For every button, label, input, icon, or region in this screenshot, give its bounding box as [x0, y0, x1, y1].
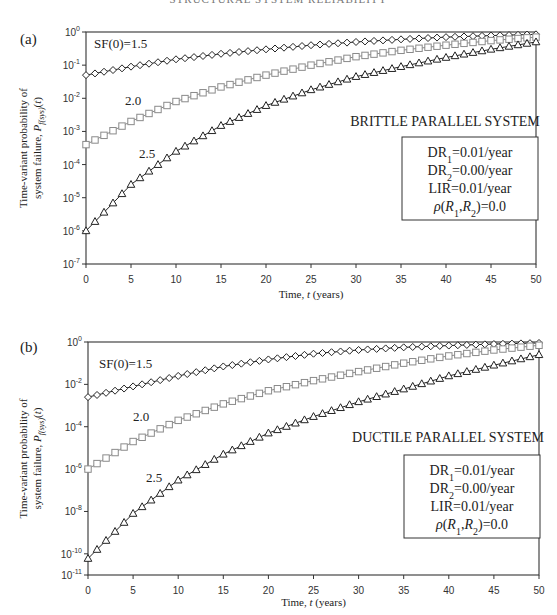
y-tick-label: 100 [65, 25, 80, 38]
y-tick-label: 10-11 [61, 568, 82, 581]
x-tick-label: 25 [308, 585, 320, 596]
y-tick-label: 10-2 [63, 91, 80, 104]
y-tick-label: 10-8 [65, 504, 82, 517]
chart-title: DUCTILE PARALLEL SYSTEM [352, 430, 544, 445]
series-label: 2.0 [133, 409, 149, 424]
series-label: 2.5 [139, 146, 155, 161]
svg-text:Time-variant probability of: Time-variant probability of [17, 398, 29, 518]
y-tick-label: 10-5 [63, 191, 80, 204]
x-tick-label: 45 [488, 585, 500, 596]
x-tick-label: 0 [83, 274, 89, 285]
x-axis: 05101520253035404550 [85, 575, 545, 596]
panel-label: (b) [20, 339, 38, 356]
y-tick-label: 10-6 [65, 462, 82, 475]
svg-text:Time-variant probability of: Time-variant probability of [17, 88, 29, 208]
y-axis-label: Time-variant probability ofsystem failur… [17, 398, 46, 518]
y-tick-label: 10-2 [65, 377, 82, 390]
x-axis: 05101520253035404550 [83, 264, 542, 285]
chart-panel-a: (a)10010-110-210-310-410-510-610-7051015… [17, 25, 542, 301]
y-axis: 10010-210-410-610-810-1010-11 [61, 335, 88, 581]
y-tick-label: 10-4 [65, 420, 82, 433]
series-label: SF(0)=1.5 [99, 356, 152, 371]
x-tick-label: 25 [305, 274, 317, 285]
panel-label: (a) [20, 31, 37, 48]
figure: (a)10010-110-210-310-410-510-610-7051015… [0, 0, 557, 615]
x-tick-label: 15 [218, 585, 230, 596]
x-tick-label: 50 [530, 274, 542, 285]
svg-text:LIR=0.01/year: LIR=0.01/year [431, 499, 514, 514]
x-tick-label: 15 [215, 274, 227, 285]
series-label: SF(0)=1.5 [94, 36, 147, 51]
y-tick-label: 10-1 [63, 58, 80, 71]
y-tick-label: 10-3 [63, 124, 80, 137]
chart-title: BRITTLE PARALLEL SYSTEM [350, 114, 540, 129]
y-tick-label: 10-6 [63, 224, 80, 237]
x-tick-label: 30 [350, 274, 362, 285]
x-tick-label: 35 [398, 585, 410, 596]
x-tick-label: 40 [443, 585, 455, 596]
x-tick-label: 30 [353, 585, 365, 596]
svg-text:LIR=0.01/year: LIR=0.01/year [429, 181, 512, 196]
x-tick-label: 35 [395, 274, 407, 285]
x-tick-label: 5 [130, 585, 136, 596]
svg-text:system failure, Pf(sys)(t): system failure, Pf(sys)(t) [31, 97, 46, 199]
x-axis-label: Time, t (years) [279, 288, 344, 301]
x-tick-label: 50 [533, 585, 545, 596]
x-tick-label: 10 [173, 585, 185, 596]
series-label: 2.5 [146, 470, 162, 485]
x-tick-label: 0 [85, 585, 91, 596]
y-tick-label: 10-7 [63, 257, 80, 270]
x-tick-label: 20 [263, 585, 275, 596]
parameter-box: DR1=0.01/yearDR2=0.00/yearLIR=0.01/yearρ… [402, 137, 538, 220]
x-tick-label: 45 [485, 274, 497, 285]
svg-text:system failure, Pf(sys)(t): system failure, Pf(sys)(t) [31, 407, 46, 509]
y-tick-label: 10-4 [63, 158, 80, 171]
x-tick-label: 5 [128, 274, 134, 285]
y-tick-label: 100 [67, 335, 82, 348]
y-axis-label: Time-variant probability ofsystem failur… [17, 88, 46, 208]
y-tick-label: 10-10 [61, 547, 82, 560]
series-02-0 [85, 342, 542, 472]
parameter-box: DR1=0.01/yearDR2=0.00/yearLIR=0.01/yearρ… [404, 455, 540, 538]
x-axis-label: Time, t (years) [281, 596, 346, 609]
x-tick-label: 10 [170, 274, 182, 285]
x-tick-label: 40 [440, 274, 452, 285]
x-tick-label: 20 [260, 274, 272, 285]
chart-panel-b: (b)10010-210-410-610-810-1010-1105101520… [17, 335, 545, 609]
series-label: 2.0 [125, 93, 141, 108]
